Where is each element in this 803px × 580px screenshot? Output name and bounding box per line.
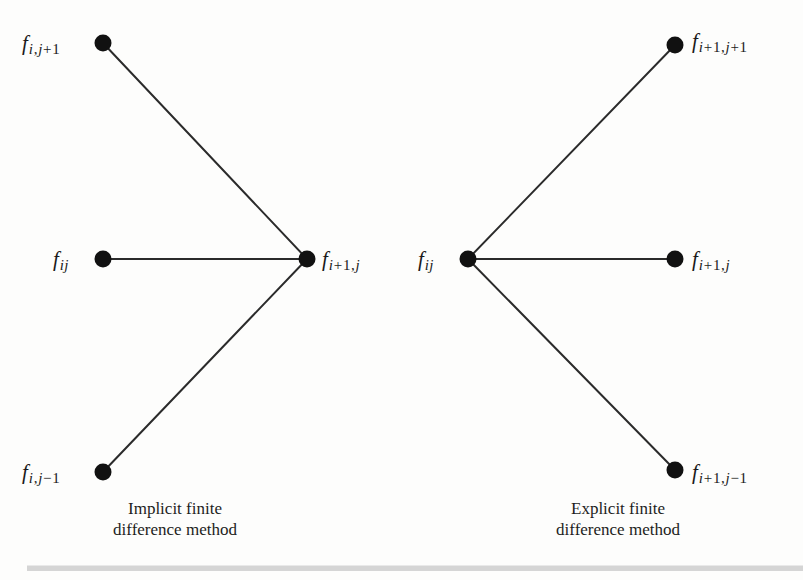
diagram-caption: Explicit finite difference method [508, 498, 728, 541]
stencil-node-label: fi+1,j−1 [692, 462, 747, 486]
edge-group [103, 43, 675, 472]
node-symbol: f [22, 460, 29, 484]
node-subscript: i+1,j−1 [699, 470, 747, 486]
node-subscript: ij [60, 257, 69, 273]
diagram-caption: Implicit finite difference method [65, 498, 285, 541]
stencil-node-label: fi+1,j [692, 249, 730, 273]
stencil-edge [103, 259, 307, 472]
node-symbol: f [692, 29, 699, 53]
node-symbol: f [322, 247, 329, 271]
node-subscript: i,j−1 [29, 470, 60, 486]
stencil-edge [468, 259, 675, 470]
stencil-node [667, 462, 684, 479]
stencil-node [667, 251, 684, 268]
node-symbol: f [22, 31, 29, 55]
stencil-edges-layer [0, 0, 803, 580]
node-symbol: f [418, 247, 425, 271]
node-symbol: f [692, 460, 699, 484]
stencil-node-label: fij [53, 249, 69, 273]
figure-page: fi,j+1fijfi,j−1fi+1,jfijfi+1,j+1fi+1,jfi… [0, 0, 803, 580]
stencil-node-label: fi+1,j+1 [692, 31, 747, 55]
stencil-node-label: fi,j+1 [22, 33, 60, 57]
stencil-edge [468, 45, 675, 259]
stencil-edge [103, 43, 307, 259]
stencil-node-label: fi,j−1 [22, 462, 60, 486]
node-subscript: i+1,j [329, 257, 360, 273]
bottom-divider-rule [27, 565, 803, 571]
node-subscript: i+1,j [699, 257, 730, 273]
node-subscript: i,j+1 [29, 41, 60, 57]
node-subscript: i+1,j+1 [699, 39, 747, 55]
stencil-node [460, 251, 477, 268]
stencil-node [95, 35, 112, 52]
diagram-stage: fi,j+1fijfi,j−1fi+1,jfijfi+1,j+1fi+1,jfi… [0, 0, 803, 580]
node-symbol: f [53, 247, 60, 271]
stencil-node-label: fij [418, 249, 434, 273]
stencil-node [95, 251, 112, 268]
node-group [95, 35, 684, 481]
stencil-node [299, 251, 316, 268]
stencil-node [95, 464, 112, 481]
node-symbol: f [692, 247, 699, 271]
stencil-node-label: fi+1,j [322, 249, 360, 273]
node-subscript: ij [425, 257, 434, 273]
stencil-node [667, 37, 684, 54]
